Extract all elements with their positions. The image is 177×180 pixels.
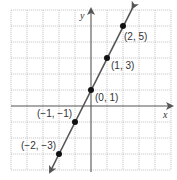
point-neg2-neg3 (56, 151, 62, 157)
label-1-3: (1, 3) (111, 60, 134, 71)
point-0-1 (88, 87, 94, 93)
label-2-5: (2, 5) (124, 31, 147, 42)
label-neg2-neg3: (−2, −3) (21, 140, 56, 151)
y-axis-label: y (79, 10, 85, 21)
label-0-1: (0, 1) (95, 92, 118, 103)
point-neg1-neg1 (72, 119, 78, 125)
point-2-5 (120, 23, 126, 29)
coordinate-plane: x y (−2, −3) (−1, −1) (0, 1) (1, 3) (2, … (0, 0, 177, 180)
x-axis-label: x (162, 109, 168, 120)
label-neg1-neg1: (−1, −1) (37, 108, 72, 119)
point-1-3 (104, 55, 110, 61)
